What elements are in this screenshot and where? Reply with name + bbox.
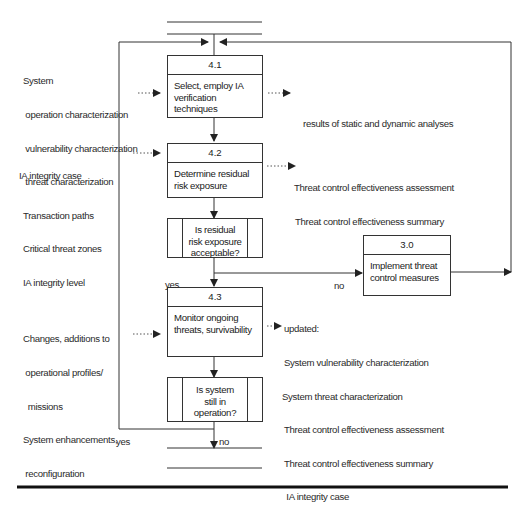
branch-label-yes: yes [165, 279, 179, 290]
input-line: operation characterization [23, 109, 137, 120]
input-line: reconfiguration [23, 468, 117, 479]
decision-label: Is residual risk exposure acceptable? [182, 219, 248, 257]
output-line: System vulnerability characterization [282, 357, 444, 368]
input-line: Critical threat zones [23, 243, 137, 254]
outputs-42: Threat control effectiveness assessment … [294, 160, 454, 250]
input-line: missions [23, 401, 117, 412]
input-line: System [23, 75, 137, 86]
output-line: Threat control effectiveness assessment [282, 424, 444, 435]
branch-label-no: no [334, 280, 344, 291]
input-line: Transaction paths [23, 210, 137, 221]
outputs-41: results of static and dynamic analyses [303, 96, 453, 152]
input-line: System enhancements, [23, 434, 117, 445]
output-line: Threat control effectiveness summary [294, 216, 454, 227]
output-line: IA integrity case [282, 491, 444, 502]
process-id: 4.1 [168, 56, 262, 75]
process-4-3: 4.3 Monitor ongoing threats, survivabili… [167, 287, 263, 357]
process-4-2: 4.2 Determine residual risk exposure [167, 143, 263, 198]
process-4-1: 4.1 Select, employ IA verification techn… [167, 55, 263, 118]
process-label: Determine residual risk exposure [168, 163, 262, 196]
output-line: System threat characterization [282, 391, 444, 402]
output-line: Threat control effectiveness assessment [294, 182, 454, 193]
output-line: results of static and dynamic analyses [303, 118, 453, 129]
input-line: IA integrity case [19, 170, 82, 181]
input-line: Changes, additions to [23, 333, 117, 344]
input-line: IA integrity level [23, 277, 137, 288]
process-label: Monitor ongoing threats, survivability [168, 307, 262, 340]
process-label: Implement threat control measures [364, 255, 450, 288]
process-id: 4.3 [168, 288, 262, 307]
inputs-43: Changes, additions to operational profil… [23, 311, 117, 501]
decision-risk-acceptable: Is residual risk exposure acceptable? [167, 218, 263, 258]
decision-label: Is system still in operation? [182, 378, 248, 421]
process-id: 4.2 [168, 144, 262, 163]
output-line: updated: [282, 323, 444, 334]
decision-system-in-operation: Is system still in operation? [167, 377, 263, 422]
branch-label-no: no [219, 436, 229, 447]
process-label: Select, employ IA verification technique… [168, 75, 262, 120]
inputs-42: IA integrity case [19, 148, 82, 204]
branch-label-yes: yes [116, 436, 130, 447]
output-line: Threat control effectiveness summary [282, 458, 444, 469]
outputs-43: updated: System vulnerability characteri… [282, 301, 444, 506]
input-line: operational profiles/ [23, 367, 117, 378]
